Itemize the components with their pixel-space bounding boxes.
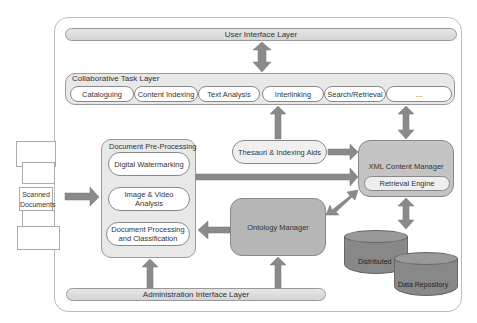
preprocessing-to-xml-arrow bbox=[196, 168, 358, 186]
xml-collab-double-arrow bbox=[398, 106, 414, 139]
admin-to-ontology-arrow bbox=[270, 257, 286, 288]
ontology-xml-double-arrow bbox=[326, 190, 358, 215]
data-repository-top bbox=[394, 252, 458, 265]
distributed-db-label: Distributed bbox=[358, 258, 391, 265]
ontology-to-preprocessing-arrow bbox=[198, 221, 230, 239]
thesauri-to-xml-arrow bbox=[328, 144, 358, 160]
distributed-db-top bbox=[344, 230, 408, 243]
thesauri-to-interlinking-arrow bbox=[270, 106, 286, 139]
admin-to-preprocessing-arrow bbox=[142, 259, 158, 288]
data-repository-label: Data Repository bbox=[398, 281, 448, 288]
xml-db-double-arrow bbox=[398, 198, 414, 229]
scanned-to-preprocessing-arrow bbox=[65, 187, 99, 206]
ui-collab-double-arrow bbox=[253, 42, 271, 72]
